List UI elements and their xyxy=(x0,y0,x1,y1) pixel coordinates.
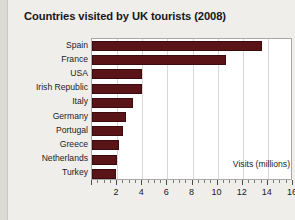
bar xyxy=(92,69,142,79)
category-axis-labels: SpainFranceUSAIrish RepublicItalyGermany… xyxy=(0,38,88,180)
category-label: Italy xyxy=(0,96,88,106)
bar xyxy=(92,84,142,94)
x-tick-minor xyxy=(154,180,155,183)
x-tick-major xyxy=(217,180,218,185)
x-tick-label: 4 xyxy=(129,187,153,197)
category-label: Irish Republic xyxy=(0,82,88,92)
x-tick-label: 2 xyxy=(104,187,128,197)
x-tick-label: 12 xyxy=(230,187,254,197)
x-tick-major xyxy=(192,180,193,185)
x-axis-title: Visits (millions) xyxy=(233,159,290,169)
x-tick-major xyxy=(267,180,268,185)
x-tick-minor xyxy=(129,180,130,183)
category-label: Germany xyxy=(0,111,88,121)
bar-row xyxy=(92,124,291,138)
category-label: Portugal xyxy=(0,125,88,135)
category-label: Spain xyxy=(0,40,88,50)
x-tick-label: 16 xyxy=(280,187,295,197)
category-label: Greece xyxy=(0,139,88,149)
x-tick-minor xyxy=(110,180,111,183)
x-tick-minor xyxy=(235,180,236,183)
x-tick-minor xyxy=(229,180,230,183)
x-tick-major xyxy=(242,180,243,185)
x-tick-minor xyxy=(210,180,211,183)
bar-row xyxy=(92,96,291,110)
x-tick-label: 8 xyxy=(180,187,204,197)
x-tick-minor xyxy=(248,180,249,183)
category-label: USA xyxy=(0,68,88,78)
x-tick-minor xyxy=(261,180,262,183)
bar xyxy=(92,155,117,165)
x-tick-minor xyxy=(148,180,149,183)
category-label: Netherlands xyxy=(0,153,88,163)
bar xyxy=(92,140,119,150)
x-tick-minor xyxy=(104,180,105,183)
bar xyxy=(92,126,123,136)
x-tick-major xyxy=(141,180,142,185)
x-tick-minor xyxy=(173,180,174,183)
bar-row xyxy=(92,39,291,53)
bar-row xyxy=(92,67,291,81)
x-tick-minor xyxy=(185,180,186,183)
x-tick-minor xyxy=(273,180,274,183)
x-tick-minor xyxy=(279,180,280,183)
category-label: France xyxy=(0,54,88,64)
x-tick-minor xyxy=(204,180,205,183)
bar xyxy=(92,98,133,108)
x-tick-minor xyxy=(286,180,287,183)
x-tick-minor xyxy=(122,180,123,183)
x-tick-minor xyxy=(198,180,199,183)
bar xyxy=(92,112,126,122)
x-tick-label: 10 xyxy=(205,187,229,197)
x-axis: 246810121416 xyxy=(91,180,292,208)
x-tick-major xyxy=(91,180,92,185)
x-tick-label: 14 xyxy=(255,187,279,197)
x-tick-minor xyxy=(135,180,136,183)
bar xyxy=(92,41,262,51)
bar-chart-figure: Countries visited by UK tourists (2008) … xyxy=(22,6,295,212)
x-tick-label: 6 xyxy=(154,187,178,197)
bar-row xyxy=(92,110,291,124)
x-tick-major xyxy=(166,180,167,185)
page-background: Countries visited by UK tourists (2008) … xyxy=(0,0,295,220)
paper-surface: Countries visited by UK tourists (2008) … xyxy=(8,0,295,220)
bar-row xyxy=(92,82,291,96)
bar xyxy=(92,169,116,179)
bar xyxy=(92,55,226,65)
bar-row xyxy=(92,138,291,152)
x-tick-minor xyxy=(223,180,224,183)
bar-row xyxy=(92,53,291,67)
x-tick-minor xyxy=(254,180,255,183)
x-tick-major xyxy=(116,180,117,185)
x-tick-major xyxy=(292,180,293,185)
x-tick-minor xyxy=(160,180,161,183)
x-tick-minor xyxy=(97,180,98,183)
x-tick-minor xyxy=(179,180,180,183)
category-label: Turkey xyxy=(0,167,88,177)
chart-title: Countries visited by UK tourists (2008) xyxy=(24,10,226,22)
